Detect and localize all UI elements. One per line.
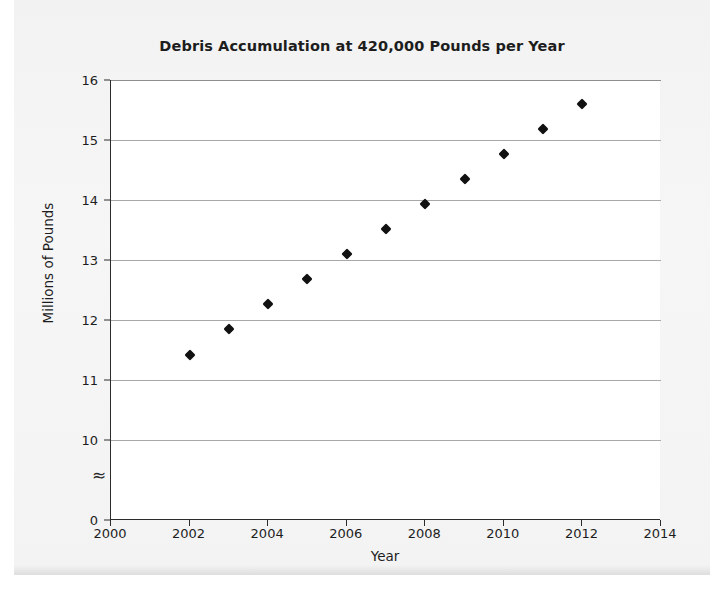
gridline-y-13: [111, 260, 661, 261]
y-axis-break-icon: ≈: [92, 466, 106, 485]
gridline-y-10: [111, 440, 661, 441]
y-tick-mark-15: [104, 140, 110, 141]
y-tick-mark-13: [104, 260, 110, 261]
x-tick-label-2004: 2004: [237, 526, 297, 541]
x-axis-label: Year: [110, 548, 660, 564]
plot-area: [110, 80, 660, 520]
y-tick-label-13: 13: [54, 253, 98, 268]
x-tick-label-2000: 2000: [80, 526, 140, 541]
y-tick-mark-11: [104, 380, 110, 381]
data-point-2004: [262, 298, 273, 309]
gridline-y-12: [111, 320, 661, 321]
data-point-2007: [380, 223, 391, 234]
data-point-2002: [184, 349, 195, 360]
y-tick-mark-16: [104, 80, 110, 81]
data-point-2011: [537, 123, 548, 134]
x-tick-label-2012: 2012: [551, 526, 611, 541]
data-point-2012: [577, 98, 588, 109]
data-point-2010: [498, 148, 509, 159]
y-tick-label-15: 15: [54, 133, 98, 148]
chart-figure: Debris Accumulation at 420,000 Pounds pe…: [0, 0, 724, 606]
y-tick-mark-14: [104, 200, 110, 201]
y-tick-label-16: 16: [54, 73, 98, 88]
x-tick-label-2002: 2002: [159, 526, 219, 541]
gridline-y-11: [111, 380, 661, 381]
gridline-y-14: [111, 200, 661, 201]
y-tick-mark-10: [104, 440, 110, 441]
data-point-2003: [223, 323, 234, 334]
chart-title: Debris Accumulation at 420,000 Pounds pe…: [0, 38, 724, 54]
y-tick-mark-12: [104, 320, 110, 321]
x-tick-label-2010: 2010: [473, 526, 533, 541]
gridline-y-15: [111, 140, 661, 141]
page-canvas: Debris Accumulation at 420,000 Pounds pe…: [0, 0, 724, 606]
y-tick-label-10: 10: [54, 433, 98, 448]
gridline-y-16: [111, 80, 661, 81]
x-tick-label-2008: 2008: [394, 526, 454, 541]
y-tick-label-12: 12: [54, 313, 98, 328]
data-point-2009: [459, 173, 470, 184]
x-tick-label-2014: 2014: [630, 526, 690, 541]
data-point-2005: [302, 274, 313, 285]
data-point-2006: [341, 248, 352, 259]
x-tick-label-2006: 2006: [316, 526, 376, 541]
y-tick-label-11: 11: [54, 373, 98, 388]
y-tick-label-14: 14: [54, 193, 98, 208]
